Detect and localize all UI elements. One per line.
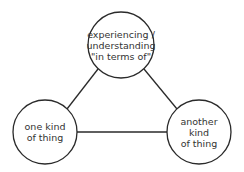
node-right: another kind of thing <box>167 100 231 164</box>
node-top-label: experiencing / understanding "in terms o… <box>86 29 155 62</box>
node-left-label: one kind of thing <box>25 121 66 143</box>
node-top: experiencing / understanding "in terms o… <box>88 12 154 78</box>
node-right-label: another kind of thing <box>180 116 217 149</box>
node-left: one kind of thing <box>13 100 77 164</box>
